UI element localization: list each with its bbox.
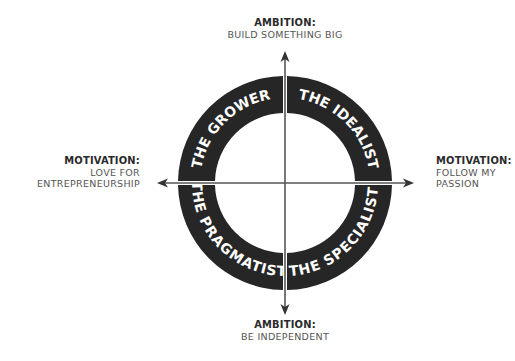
axis-text-left-line2: ENTREPRENEURSHIP xyxy=(0,179,140,190)
axis-text-bottom: BE INDEPENDENT xyxy=(185,332,385,343)
axis-text-top: BUILD SOMETHING BIG xyxy=(185,30,385,41)
axis-heading-bottom: AMBITION: xyxy=(185,319,385,332)
axis-label-bottom: AMBITION: BE INDEPENDENT xyxy=(185,319,385,343)
axis-heading-top: AMBITION: xyxy=(185,17,385,30)
axis-label-left: MOTIVATION: LOVE FOR ENTREPRENEURSHIP xyxy=(0,155,140,189)
axis-text-right-line1: FOLLOW MY xyxy=(436,168,515,179)
axis-label-right: MOTIVATION: FOLLOW MY PASSION xyxy=(436,155,515,189)
axis-text-left-line1: LOVE FOR xyxy=(0,168,140,179)
axis-label-top: AMBITION: BUILD SOMETHING BIG xyxy=(185,17,385,41)
axis-text-right-line2: PASSION xyxy=(436,179,515,190)
axis-heading-left: MOTIVATION: xyxy=(0,155,140,168)
axis-heading-right: MOTIVATION: xyxy=(436,155,515,168)
